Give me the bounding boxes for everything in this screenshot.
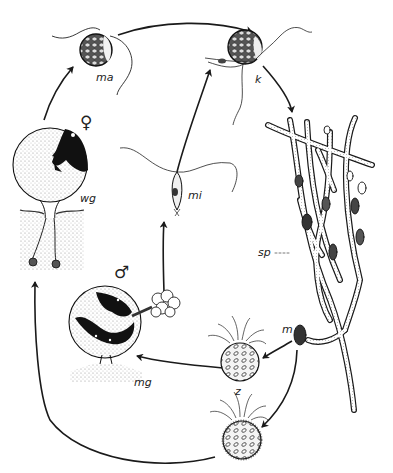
arrow-mg-to-mi xyxy=(163,222,164,292)
life-cycle-diagram: ma k mi wg sp m z mg ♀ ♂ xyxy=(0,0,393,473)
arrow-mi-to-k xyxy=(177,70,210,172)
label-mi: mi xyxy=(188,189,202,202)
zoospore-z xyxy=(208,316,266,381)
microgamete-mi xyxy=(120,148,237,216)
label-wg: wg xyxy=(80,192,96,205)
label-z: z xyxy=(235,385,241,398)
male-gametophyte-mg xyxy=(69,286,180,382)
female-gametophyte-wg xyxy=(13,128,88,270)
arrow-m-to-z2 xyxy=(262,350,297,427)
sporophyte-sp xyxy=(268,118,372,410)
label-sp: sp xyxy=(258,246,271,259)
released-gametes-cloud xyxy=(151,290,180,317)
arrow-k-to-sp xyxy=(263,66,292,112)
male-symbol-icon: ♂ xyxy=(114,262,129,282)
arrow-z-to-mg xyxy=(137,356,223,368)
arrow-m-to-z xyxy=(263,341,292,358)
label-m: m xyxy=(282,323,293,336)
macrogamete-ma xyxy=(52,28,132,95)
arrow-wg-to-ma xyxy=(44,67,73,120)
label-k: k xyxy=(255,73,261,86)
arrow-ma-to-k xyxy=(118,23,252,35)
female-symbol-icon: ♀ xyxy=(80,112,92,132)
zoospore-z2 xyxy=(210,392,268,459)
diagram-canvas xyxy=(0,0,393,473)
label-ma: ma xyxy=(96,71,113,84)
label-mg: mg xyxy=(134,376,152,389)
